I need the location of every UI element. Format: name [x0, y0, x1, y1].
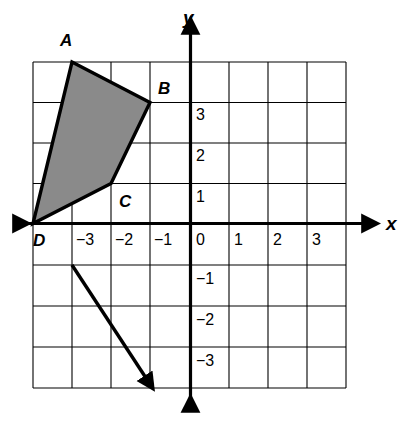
x-tick-2: 2	[273, 231, 282, 248]
vertex-label-a: A	[59, 31, 72, 50]
y-tick-3: 3	[196, 106, 205, 123]
x-tick-neg3: −3	[76, 231, 94, 248]
x-tick-neg2: −2	[115, 231, 133, 248]
y-axis-label: y	[182, 7, 195, 28]
y-tick-2: 2	[196, 147, 205, 164]
x-tick-neg1: −1	[154, 231, 172, 248]
coordinate-plane-diagram: x y −3 −2 −1 0 1 2 3 3 2 1 −1 −2 −3 A B …	[0, 0, 411, 425]
x-tick-0: 0	[196, 231, 205, 248]
vertex-label-c: C	[119, 192, 132, 211]
y-tick-1: 1	[196, 188, 205, 205]
vertex-label-b: B	[158, 79, 170, 98]
x-tick-3: 3	[312, 231, 321, 248]
x-tick-1: 1	[234, 231, 243, 248]
figure-canvas: x y −3 −2 −1 0 1 2 3 3 2 1 −1 −2 −3 A B …	[0, 0, 411, 425]
x-axis-label: x	[385, 213, 398, 234]
y-tick-neg1: −1	[196, 270, 214, 287]
y-tick-neg3: −3	[196, 352, 214, 369]
vertex-label-d: D	[33, 231, 45, 250]
x-axis-tick-labels: −3 −2 −1 0 1 2 3	[76, 231, 321, 248]
y-tick-neg2: −2	[196, 311, 214, 328]
translation-arrow	[72, 265, 146, 378]
